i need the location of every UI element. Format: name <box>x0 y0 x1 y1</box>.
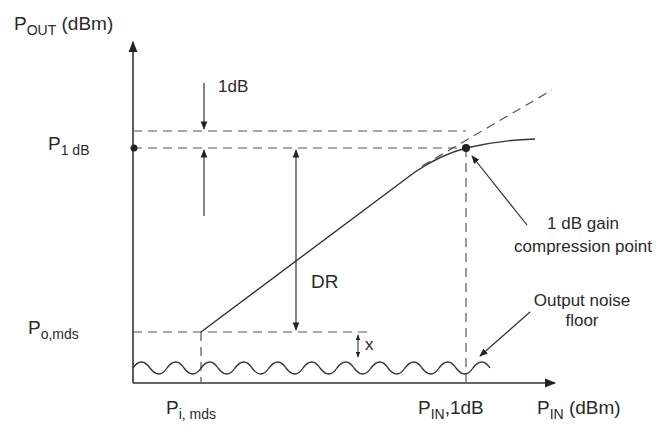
p1db-label: P1 dB <box>48 134 90 153</box>
noise-line2: floor <box>522 312 642 329</box>
pomds-label: Po,mds <box>28 318 79 337</box>
compression-line2: compression point <box>508 238 658 255</box>
p1db-axis-dot <box>131 145 138 152</box>
noise-floor-annotation: Output noise floor <box>522 292 642 329</box>
compression-line1: 1 dB gain <box>508 215 658 232</box>
compression-point-annotation: 1 dB gain compression point <box>508 215 658 255</box>
y-axis-label: POUT (dBm) <box>14 14 113 33</box>
dr-label: DR <box>311 272 338 291</box>
compression-point-dot <box>462 144 470 152</box>
pimds-label: Pi, mds <box>166 398 216 417</box>
x-axis-label: PIN (dBm) <box>537 398 621 417</box>
linear-extrapolation <box>422 90 552 166</box>
noise-line1: Output noise <box>522 292 642 309</box>
pin1db-label: PIN,1dB <box>418 398 484 417</box>
noise-floor-wave <box>133 362 490 374</box>
one-db-label: 1dB <box>218 78 248 95</box>
output-power-curve <box>201 139 535 332</box>
x-margin-label: x <box>365 336 374 353</box>
